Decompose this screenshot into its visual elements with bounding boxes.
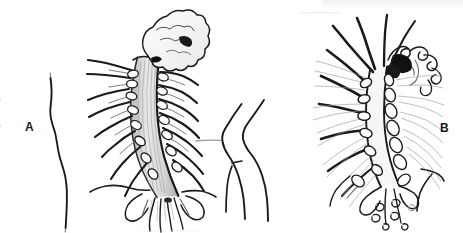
figure-a-posterior-node — [164, 197, 172, 202]
plate-illustration — [0, 0, 463, 233]
panel-label-a: A — [25, 121, 34, 133]
margin-text-fragment-2: s — [0, 122, 1, 129]
panel-label-b: B — [440, 122, 449, 134]
margin-text-fragment-1: c — [0, 96, 1, 103]
figure-plate: A B c s — [0, 0, 463, 233]
